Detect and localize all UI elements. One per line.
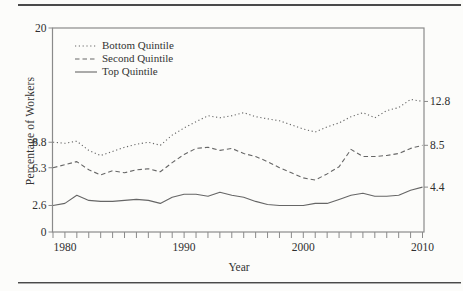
y-tick-label: 20 (35, 22, 47, 34)
series-line-top-quintile (53, 187, 423, 205)
x-tick-label: 1990 (173, 241, 196, 253)
x-tick-label: 1980 (53, 241, 76, 253)
legend-item-top-quintile: Top Quintile (75, 65, 174, 78)
legend-item-second-quintile: Second Quintile (75, 52, 174, 65)
legend-label: Top Quintile (102, 65, 158, 78)
dotted-line-sample-icon (75, 43, 97, 49)
right-value-label: 8.5 (430, 139, 445, 151)
dashed-line-sample-icon (75, 56, 97, 62)
y-axis-title: Percentage of Workers (24, 77, 36, 185)
legend-label: Second Quintile (102, 52, 173, 65)
legend: Bottom Quintile Second Quintile Top Quin… (75, 39, 174, 78)
y-tick-label: 0 (41, 226, 47, 238)
x-tick-label: 2000 (292, 241, 315, 253)
figure: 1980199020002010208.86.32.6012.88.54.4 P… (0, 0, 463, 291)
right-value-label: 4.4 (430, 181, 445, 193)
series-line-second-quintile (53, 145, 423, 180)
series-line-bottom-quintile (53, 99, 423, 155)
x-axis-title: Year (228, 261, 249, 273)
line-chart: 1980199020002010208.86.32.6012.88.54.4 (0, 0, 463, 291)
right-value-label: 12.8 (430, 95, 450, 107)
legend-label: Bottom Quintile (102, 39, 174, 52)
x-tick-label: 2010 (411, 241, 434, 253)
y-tick-label: 2.6 (32, 199, 47, 211)
solid-line-sample-icon (75, 69, 97, 75)
legend-item-bottom-quintile: Bottom Quintile (75, 39, 174, 52)
